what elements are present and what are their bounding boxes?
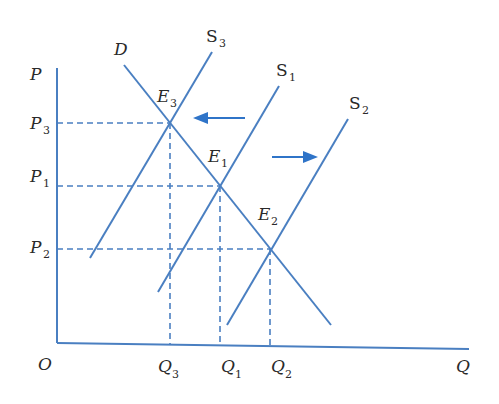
left-arrow-head-icon bbox=[193, 112, 208, 124]
s2-subscript: 2 bbox=[362, 104, 369, 117]
e1-label: E bbox=[207, 146, 221, 166]
p3-label: P bbox=[29, 113, 42, 133]
p2-subscript: 2 bbox=[43, 248, 50, 261]
supply-curve-s2 bbox=[227, 119, 348, 325]
x-axis bbox=[57, 343, 469, 349]
s1-subscript: 1 bbox=[289, 71, 296, 84]
q1-subscript: 1 bbox=[235, 368, 242, 381]
p1-subscript: 1 bbox=[43, 177, 50, 190]
p3-subscript: 3 bbox=[43, 124, 50, 137]
e1-subscript: 1 bbox=[221, 157, 228, 170]
demand-curve bbox=[124, 65, 331, 325]
s2-label: S bbox=[349, 93, 361, 113]
supply-demand-diagram: P Q O D S 3 S 1 S 2 E 3 E 1 E 2 P 3 P 1 … bbox=[0, 0, 499, 404]
e3-subscript: 3 bbox=[170, 97, 177, 110]
origin-label: O bbox=[38, 354, 52, 374]
y-axis-label: P bbox=[29, 64, 42, 84]
q2-label: Q bbox=[271, 356, 285, 376]
curves bbox=[90, 52, 348, 325]
p2-label: P bbox=[29, 237, 42, 257]
diagram-svg: P Q O D S 3 S 1 S 2 E 3 E 1 E 2 P 3 P 1 … bbox=[0, 0, 499, 404]
s3-label: S bbox=[206, 26, 218, 46]
s1-label: S bbox=[276, 60, 288, 80]
q3-subscript: 3 bbox=[172, 368, 179, 381]
s3-subscript: 3 bbox=[219, 37, 226, 50]
p1-label: P bbox=[29, 166, 42, 186]
q1-label: Q bbox=[221, 356, 235, 376]
q3-label: Q bbox=[158, 356, 172, 376]
right-arrow-head-icon bbox=[303, 151, 318, 163]
supply-curve-s3 bbox=[90, 52, 212, 258]
x-axis-label: Q bbox=[456, 356, 470, 376]
e2-label: E bbox=[257, 204, 271, 224]
e3-label: E bbox=[156, 86, 170, 106]
q2-subscript: 2 bbox=[285, 368, 292, 381]
e2-subscript: 2 bbox=[271, 215, 278, 228]
demand-label: D bbox=[113, 39, 128, 59]
